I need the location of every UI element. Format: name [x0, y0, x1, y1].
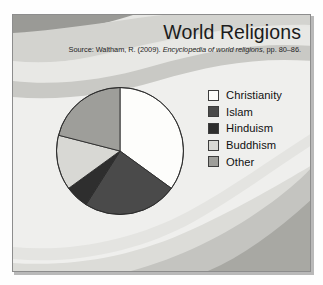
legend-item-other[interactable]: Other — [208, 153, 311, 170]
legend-swatch-other — [208, 156, 219, 167]
source-prefix: Source: Waltham, R. (2009). — [69, 45, 163, 54]
legend-item-buddhism[interactable]: Buddhism — [208, 137, 311, 154]
legend-swatch-islam — [208, 106, 219, 117]
legend-label-other: Other — [226, 156, 254, 168]
legend-label-hinduism: Hinduism — [226, 122, 273, 134]
pie-chart — [54, 85, 186, 217]
legend-item-islam[interactable]: Islam — [208, 104, 311, 121]
legend-label-buddhism: Buddhism — [226, 139, 276, 151]
legend-swatch-buddhism — [208, 140, 219, 151]
legend-label-islam: Islam — [226, 106, 253, 118]
chart-legend: Christianity Islam Hinduism Buddhism Oth… — [208, 87, 311, 170]
legend-swatch-christianity — [208, 90, 219, 101]
legend-label-christianity: Christianity — [226, 89, 282, 101]
legend-item-christianity[interactable]: Christianity — [208, 87, 311, 104]
legend-swatch-hinduism — [208, 123, 219, 134]
source-pages: , pp. 80–86. — [263, 45, 301, 54]
slide-frame: World Religions Source: Waltham, R. (200… — [12, 14, 311, 272]
source-book-title: Encyclopedia of world religions — [163, 45, 263, 54]
slide-title: World Religions — [163, 21, 301, 44]
legend-item-hinduism[interactable]: Hinduism — [208, 120, 311, 137]
source-citation: Source: Waltham, R. (2009). Encyclopedia… — [69, 45, 301, 54]
slide-page: World Religions Source: Waltham, R. (200… — [0, 0, 323, 285]
